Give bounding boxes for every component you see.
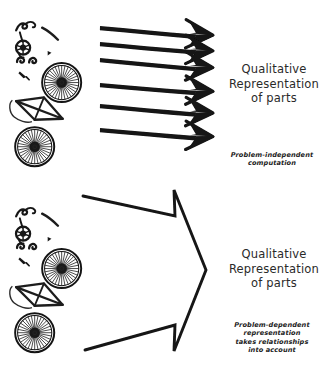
panel-bottom bbox=[10, 190, 206, 352]
bottom-result-title-line2: Representation bbox=[222, 262, 326, 277]
thin-arrow-4 bbox=[100, 75, 215, 106]
top-result-title-line3: of parts bbox=[222, 91, 326, 106]
top-result-title: Qualitative Representation of parts bbox=[222, 62, 326, 106]
top-caption-line2: computation bbox=[218, 159, 326, 167]
top-caption-line1: Problem-independent bbox=[218, 151, 326, 159]
bottom-result-title-line1: Qualitative bbox=[222, 247, 326, 262]
diagram-svg bbox=[0, 0, 328, 373]
bottom-caption: Problem-dependent representation takes r… bbox=[218, 321, 326, 355]
diagram-canvas: Qualitative Representation of parts Prob… bbox=[0, 0, 328, 373]
bottom-caption-line2: representation bbox=[218, 329, 326, 337]
top-result-title-line2: Representation bbox=[222, 77, 326, 92]
large-outlined-arrow bbox=[83, 190, 206, 351]
bicycle-parts-cluster-bottom bbox=[10, 208, 81, 352]
panel-top bbox=[10, 18, 215, 167]
bottom-caption-line1: Problem-dependent bbox=[218, 321, 326, 329]
bottom-caption-line4: into account bbox=[218, 346, 326, 354]
top-result-title-line1: Qualitative bbox=[222, 62, 326, 77]
bottom-result-title-line3: of parts bbox=[222, 276, 326, 291]
bottom-caption-line3: takes relationships bbox=[218, 338, 326, 346]
thin-arrow-group bbox=[99, 18, 215, 151]
top-caption: Problem-independent computation bbox=[218, 151, 326, 168]
bottom-result-title: Qualitative Representation of parts bbox=[222, 247, 326, 291]
bicycle-parts-cluster-top bbox=[10, 22, 81, 166]
thin-arrow-6 bbox=[100, 120, 216, 151]
